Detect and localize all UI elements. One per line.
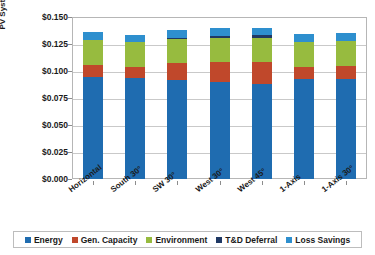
legend-label: Environment [155, 235, 207, 245]
y-tick-label: $0.025 [42, 147, 68, 157]
bar-segment[interactable] [83, 77, 103, 179]
y-tick-label: $0.100 [42, 66, 68, 76]
bar-stack[interactable] [167, 17, 187, 179]
bar-stack[interactable] [252, 17, 272, 179]
bar-segment[interactable] [252, 84, 272, 179]
legend-label: T&D Deferral [225, 235, 277, 245]
x-tick-mark [93, 181, 94, 185]
bar-stack[interactable] [210, 17, 230, 179]
bar-segment[interactable] [252, 35, 272, 37]
chart-figure: PV System Value (levelized $/kWh) $0.000… [0, 0, 375, 255]
legend-swatch-icon [72, 237, 78, 243]
legend-item[interactable]: Energy [25, 235, 63, 245]
bar-stack[interactable] [125, 17, 145, 179]
bar-segment[interactable] [210, 36, 230, 38]
legend-swatch-icon [286, 237, 292, 243]
bars-layer [72, 17, 367, 179]
bar-segment[interactable] [252, 38, 272, 62]
bar-segment[interactable] [336, 79, 356, 179]
bar-segment[interactable] [336, 66, 356, 79]
legend-item[interactable]: Gen. Capacity [72, 235, 138, 245]
bar-segment[interactable] [83, 32, 103, 40]
x-tick-mark [135, 181, 136, 185]
bar-segment[interactable] [83, 65, 103, 77]
bar-segment[interactable] [125, 67, 145, 78]
bar-segment[interactable] [294, 34, 314, 42]
bar-segment[interactable] [294, 79, 314, 179]
bar-segment[interactable] [167, 63, 187, 79]
x-axis-labels: HorizontalSouth 30°SW 30°West 30°West 45… [72, 181, 367, 225]
bar-segment[interactable] [125, 42, 145, 67]
bar-segment[interactable] [294, 67, 314, 79]
bar-segment[interactable] [210, 38, 230, 63]
x-tick-mark [346, 181, 347, 185]
bar-segment[interactable] [167, 80, 187, 179]
bar-segment[interactable] [252, 28, 272, 35]
x-tick-mark [220, 181, 221, 185]
y-tick-mark [68, 179, 72, 180]
y-tick-label: $0.000 [42, 174, 68, 184]
legend-label: Gen. Capacity [81, 235, 138, 245]
y-tick-label: $0.050 [42, 120, 68, 130]
bar-segment[interactable] [210, 82, 230, 179]
y-axis-ticks: $0.000$0.025$0.050$0.075$0.100$0.125$0.1… [0, 0, 72, 255]
legend-label: Loss Savings [295, 235, 350, 245]
bar-stack[interactable] [294, 17, 314, 179]
legend-label: Energy [34, 235, 63, 245]
bar-segment[interactable] [167, 38, 187, 39]
bar-segment[interactable] [83, 40, 103, 65]
bar-segment[interactable] [125, 78, 145, 179]
legend-item[interactable]: Loss Savings [286, 235, 350, 245]
bar-stack[interactable] [83, 17, 103, 179]
bar-segment[interactable] [167, 39, 187, 64]
x-tick-mark [177, 181, 178, 185]
bar-segment[interactable] [210, 28, 230, 36]
bar-segment[interactable] [336, 41, 356, 66]
legend-item[interactable]: T&D Deferral [216, 235, 277, 245]
x-tick-mark [262, 181, 263, 185]
y-tick-label: $0.125 [42, 39, 68, 49]
bar-segment[interactable] [294, 42, 314, 67]
legend-swatch-icon [25, 237, 31, 243]
chart-legend: EnergyGen. CapacityEnvironmentT&D Deferr… [13, 231, 362, 248]
bar-segment[interactable] [336, 33, 356, 41]
bar-segment[interactable] [125, 35, 145, 41]
bar-stack[interactable] [336, 17, 356, 179]
legend-swatch-icon [146, 237, 152, 243]
legend-item[interactable]: Environment [146, 235, 207, 245]
y-tick-label: $0.150 [42, 12, 68, 22]
bar-segment[interactable] [167, 30, 187, 38]
y-tick-label: $0.075 [42, 93, 68, 103]
x-tick-mark [304, 181, 305, 185]
bar-segment[interactable] [210, 62, 230, 81]
legend-swatch-icon [216, 237, 222, 243]
bar-segment[interactable] [252, 62, 272, 84]
